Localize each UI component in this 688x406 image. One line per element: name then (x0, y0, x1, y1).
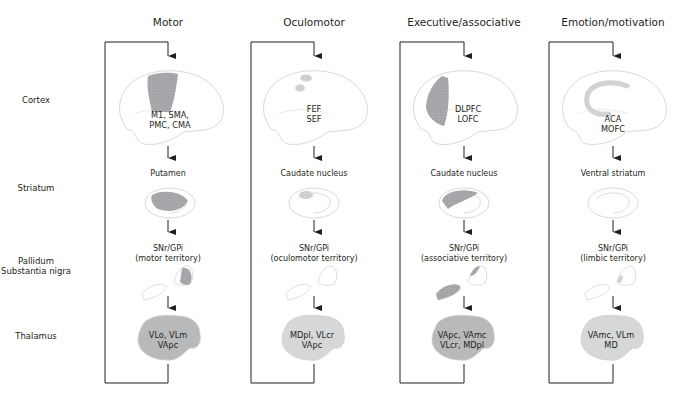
pallidum-motor-shape (142, 266, 193, 300)
striatum-label-executive: Caudate nucleus (394, 169, 534, 179)
cortex-label-line: MOFC (573, 124, 653, 134)
cortex-label-executive: DLPFC LOFC (428, 104, 508, 124)
cortex-label-line: LOFC (428, 114, 508, 124)
striatum-caudate-associative-shape (439, 188, 489, 218)
loop-title-executive: Executive/associative (389, 16, 539, 28)
pallidum-associative-shape (436, 266, 487, 300)
pallidum-label-line: SNr/GPi (543, 244, 683, 254)
striatum-label-oculomotor: Caudate nucleus (244, 169, 384, 179)
loop-title-oculomotor: Oculomotor (239, 16, 389, 28)
pallidum-label-motor: SNr/GPi (motor territory) (98, 244, 238, 264)
cortex-label-line: SEF (274, 114, 354, 124)
thalamus-label-line: MDpl, VLcr (272, 330, 352, 340)
thalamus-label-line: MD (571, 340, 651, 350)
thalamus-label-motor: VLo, VLm VApc (128, 330, 208, 350)
pallidum-label-line: (oculomotor territory) (244, 254, 384, 264)
thalamus-label-line: VLcr, MDpl (422, 340, 502, 350)
thalamus-label-executive: VApc, VAmc VLcr, MDpl (422, 330, 502, 350)
pallidum-label-line: SNr/GPi (244, 244, 384, 254)
cortex-motor-brain (120, 71, 224, 145)
cortex-label-emotion: ACA MOFC (573, 114, 653, 134)
pallidum-label-executive: SNr/GPi (associative territory) (394, 244, 534, 264)
thalamus-label-line: VLo, VLm (128, 330, 208, 340)
pallidum-label-line: SNr/GPi (394, 244, 534, 254)
pallidum-label-emotion: SNr/GPi (limbic territory) (543, 244, 683, 264)
cortex-label-line: PMC, CMA (130, 120, 210, 130)
striatum-ventral-shape (588, 188, 638, 218)
pallidum-label-line: (limbic territory) (543, 254, 683, 264)
striatum-label-motor: Putamen (98, 169, 238, 179)
pallidum-label-line: (motor territory) (98, 254, 238, 264)
thalamus-label-line: VApc (128, 340, 208, 350)
cortex-label-line: ACA (573, 114, 653, 124)
pallidum-label-line: SNr/GPi (98, 244, 238, 254)
pallidum-limbic-shape (585, 266, 636, 300)
loop-title-motor: Motor (93, 16, 243, 28)
cortex-label-line: FEF (274, 104, 354, 114)
striatum-putamen-shape (145, 188, 195, 218)
thalamus-label-line: VAmc, VLm (571, 330, 651, 340)
thalamus-label-line: VApc (272, 340, 352, 350)
loop-title-emotion: Emotion/motivation (538, 16, 688, 28)
cortex-label-line: M1, SMA, (130, 110, 210, 120)
pallidum-label-oculomotor: SNr/GPi (oculomotor territory) (244, 244, 384, 264)
pallidum-label-line: (associative territory) (394, 254, 534, 264)
pallidum-oculomotor-shape (286, 266, 337, 300)
cortex-label-oculomotor: FEF SEF (274, 104, 354, 124)
thalamus-label-oculomotor: MDpl, VLcr VApc (272, 330, 352, 350)
striatum-caudate-oculomotor-shape (289, 188, 339, 218)
thalamus-label-emotion: VAmc, VLm MD (571, 330, 651, 350)
cortex-label-line: DLPFC (428, 104, 508, 114)
thalamus-label-line: VApc, VAmc (422, 330, 502, 340)
cortex-label-motor: M1, SMA, PMC, CMA (130, 110, 210, 130)
striatum-label-emotion: Ventral striatum (543, 169, 683, 179)
